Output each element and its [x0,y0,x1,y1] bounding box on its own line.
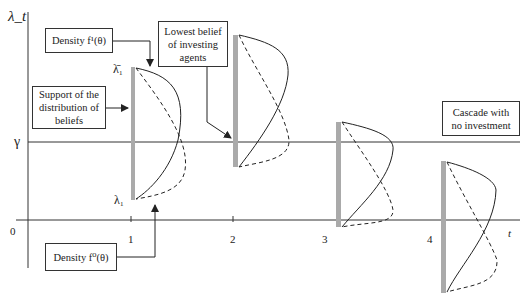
lambda-under-label: λ₁ [114,193,124,208]
x-tick-2: 2 [230,233,236,245]
lambda-bar-label: λ̄₁ [113,62,123,77]
gamma-label: γ [14,134,20,150]
x-axis-label: t [508,227,511,239]
support-box: Support of the distribution of beliefs [32,86,106,129]
x-tick-1: 1 [128,233,134,245]
cascade-box: Cascade with no investment [442,101,520,136]
y-axis-label: λ_t [8,8,26,25]
x-tick-4: 4 [427,233,433,245]
support-bar-1 [131,67,135,200]
density-f0-box: Density f⁰(θ) [45,243,117,271]
support-bar-2 [233,35,238,167]
x-tick-3: 3 [322,233,328,245]
support-bar-3 [336,122,341,227]
support-bar-4 [441,161,446,293]
density-f1-box: Density f¹(θ) [45,28,113,53]
lowest-belief-box: Lowest belief of investing agents [158,21,228,67]
origin-label: 0 [10,225,16,237]
